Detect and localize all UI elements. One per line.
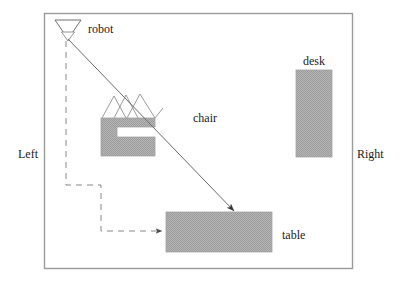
chair-shape <box>101 118 155 156</box>
label-table: table <box>282 229 305 241</box>
table-shape <box>166 212 272 252</box>
label-left: Left <box>18 148 38 160</box>
label-robot: robot <box>88 23 113 35</box>
label-chair: chair <box>193 112 217 124</box>
scene-diagram: robot desk chair Left Right table <box>0 0 401 282</box>
label-right: Right <box>357 148 384 160</box>
label-desk: desk <box>303 55 325 67</box>
desk-shape <box>296 70 332 157</box>
diagram-canvas <box>0 0 401 282</box>
